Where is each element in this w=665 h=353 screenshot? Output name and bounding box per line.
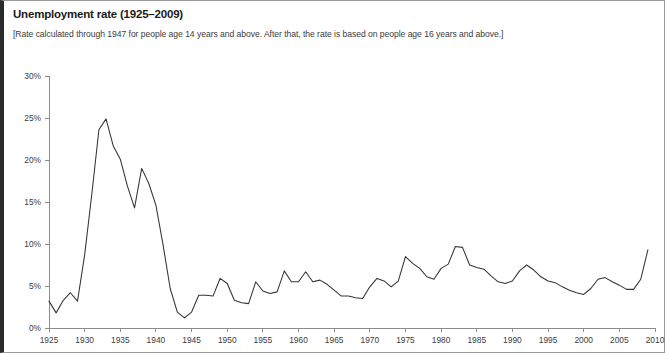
y-axis: 0%5%10%15%20%25%30% <box>24 71 49 333</box>
x-tick-label: 1965 <box>325 335 344 345</box>
chart-plot-area: 0%5%10%15%20%25%30% 19251930193519401945… <box>4 1 665 352</box>
x-tick-label: 1970 <box>361 335 380 345</box>
y-tick-label: 25% <box>24 113 41 123</box>
x-tick-label: 1940 <box>147 335 166 345</box>
y-tick-label: 30% <box>24 71 41 81</box>
x-tick-label: 1960 <box>289 335 308 345</box>
x-tick-label: 1980 <box>432 335 451 345</box>
chart-panel: Unemployment rate (1925–2009) [Rate calc… <box>0 0 665 353</box>
x-tick-label: 1985 <box>467 335 486 345</box>
x-tick-label: 2000 <box>574 335 593 345</box>
x-tick-label: 1935 <box>111 335 130 345</box>
x-tick-label: 2010 <box>646 335 665 345</box>
x-tick-label: 1990 <box>503 335 522 345</box>
x-tick-label: 1950 <box>218 335 237 345</box>
x-axis: 1925193019351940194519501955196019651970… <box>40 328 665 345</box>
x-tick-label: 1945 <box>182 335 201 345</box>
x-tick-label: 1975 <box>396 335 415 345</box>
y-tick-label: 15% <box>24 197 41 207</box>
series-unemployment-rate <box>49 119 648 318</box>
x-tick-label: 2005 <box>610 335 629 345</box>
x-tick-label: 1995 <box>539 335 558 345</box>
y-tick-label: 10% <box>24 239 41 249</box>
x-tick-label: 1930 <box>75 335 94 345</box>
y-tick-label: 0% <box>29 323 42 333</box>
unemployment-line-chart: 0%5%10%15%20%25%30% 19251930193519401945… <box>4 1 665 352</box>
x-tick-label: 1955 <box>254 335 273 345</box>
y-tick-label: 5% <box>29 281 42 291</box>
x-tick-label: 1925 <box>40 335 59 345</box>
y-tick-label: 20% <box>24 155 41 165</box>
